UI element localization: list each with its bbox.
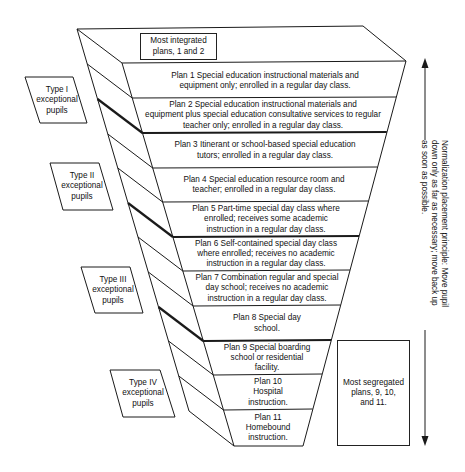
plan-1-label: Plan 1 Special education instructional m… <box>171 71 359 91</box>
plan-6-label: Plan 6 Self-contained special day class … <box>195 239 337 270</box>
type-4-label: Type IV exceptional pupils <box>117 378 169 409</box>
plan-4: Plan 4 Special education resource room a… <box>158 168 370 202</box>
arrow-down-icon <box>422 436 429 446</box>
arrow-up-icon <box>422 58 429 68</box>
type-1-label: Type I exceptional pupils <box>32 85 82 116</box>
plan-7: Plan 7 Combination regular and special d… <box>188 271 346 306</box>
plan-11-label: Plan 11 Homebound instruction. <box>246 413 291 444</box>
plan-2-label: Plan 2 Special education instructional m… <box>145 100 381 131</box>
plan-9: Plan 9 Special boarding school or reside… <box>208 341 326 375</box>
most-integrated-label: Most integrated plans, 1 and 2 <box>150 36 206 56</box>
plan-11: Plan 11 Homebound instruction. <box>228 410 308 446</box>
most-integrated-box: Most integrated plans, 1 and 2 <box>140 33 217 60</box>
normalization-principle-text: Normalization placement principle: Move … <box>419 140 449 340</box>
type-3-label: Type III exceptional pupils <box>88 275 138 306</box>
plan-5: Plan 5 Part-time special day class where… <box>168 202 364 237</box>
plan-3: Plan 3 Itinerant or school-based special… <box>150 133 380 168</box>
plan-9-label: Plan 9 Special boarding school or reside… <box>224 343 311 374</box>
most-segregated-label: Most segregated plans, 9, 10, and 11. <box>343 378 404 409</box>
plan-4-label: Plan 4 Special education resource room a… <box>183 175 344 195</box>
most-segregated-box: Most segregated plans, 9, 10, and 11. <box>337 340 410 446</box>
plan-8: Plan 8 Special day school. <box>198 306 336 341</box>
plan-2: Plan 2 Special education instructional m… <box>135 98 391 133</box>
type-2-label: Type II exceptional pupils <box>57 171 107 202</box>
plan-1: Plan 1 Special education instructional m… <box>132 64 398 98</box>
plan-7-label: Plan 7 Combination regular and special d… <box>196 273 339 304</box>
plan-6: Plan 6 Self-contained special day class … <box>178 237 354 271</box>
plan-10: Plan 10 Hospital instruction. <box>218 375 318 410</box>
funnel-top-face <box>77 26 406 63</box>
plan-10-label: Plan 10 Hospital instruction. <box>248 377 288 408</box>
plan-3-label: Plan 3 Itinerant or school-based special… <box>174 140 355 160</box>
plan-5-label: Plan 5 Part-time special day class where… <box>192 204 339 235</box>
plan-8-label: Plan 8 Special day school. <box>233 313 301 333</box>
